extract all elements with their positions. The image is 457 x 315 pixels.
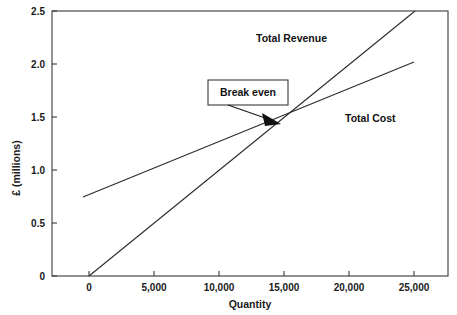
x-tick-label-0: 0: [86, 282, 92, 293]
total-revenue-label: Total Revenue: [256, 32, 327, 44]
break-even-leader-line: [228, 105, 268, 119]
x-tick-label-25000: 25,000: [399, 282, 430, 293]
break-even-arrowhead: [262, 113, 281, 126]
x-tick-label-10000: 10,000: [204, 282, 235, 293]
x-tick-label-20000: 20,000: [334, 282, 365, 293]
y-tick-label-1-0: 1.0: [31, 165, 45, 176]
y-axis-title: £ (millions): [10, 140, 22, 195]
y-tick-label-1-5: 1.5: [31, 112, 45, 123]
x-tick-label-15000: 15,000: [269, 282, 300, 293]
y-tick-label-0-5: 0.5: [31, 218, 45, 229]
total-cost-label: Total Cost: [345, 112, 396, 124]
y-axis-ticks: [52, 11, 57, 276]
y-tick-label-0: 0: [39, 271, 45, 282]
total-revenue-line: [89, 11, 415, 276]
break-even-chart: 2.5 2.0 1.5 1.0 0.5 0 £ (millions) 0 5,0…: [0, 0, 457, 315]
plot-frame: [52, 11, 448, 276]
y-tick-label-2-5: 2.5: [31, 6, 45, 17]
x-axis-ticks: [89, 271, 414, 276]
x-axis-title: Quantity: [229, 298, 272, 310]
chart-canvas: 2.5 2.0 1.5 1.0 0.5 0 £ (millions) 0 5,0…: [0, 0, 457, 315]
y-tick-label-2-0: 2.0: [31, 59, 45, 70]
break-even-label: Break even: [220, 86, 276, 98]
x-tick-label-5000: 5,000: [141, 282, 166, 293]
